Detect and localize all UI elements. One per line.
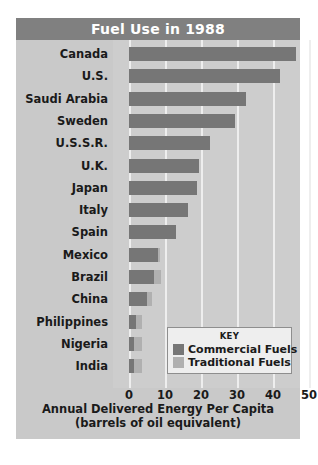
chart-figure: Fuel Use in 1988 CanadaU.S.Saudi ArabiaS… <box>16 18 300 439</box>
category-label: Brazil <box>71 270 108 284</box>
category-label: Mexico <box>63 248 108 262</box>
bar-segment-traditional <box>158 248 161 262</box>
x-tick-label: 40 <box>260 388 286 403</box>
chart-title: Fuel Use in 1988 <box>16 18 300 40</box>
axis-title-line2: (barrels of oil equivalent) <box>16 417 300 431</box>
bar-segment-traditional <box>154 270 161 284</box>
legend-swatch-icon <box>173 357 184 368</box>
bar-segment-traditional <box>134 359 141 373</box>
bar-segment-commercial <box>129 92 246 106</box>
x-tick-label: 10 <box>152 388 178 403</box>
bar-segment-traditional <box>134 337 141 351</box>
category-label: U.S. <box>82 69 108 83</box>
category-label: Saudi Arabia <box>25 92 108 106</box>
bar-segment-commercial <box>129 203 188 217</box>
plot-body: CanadaU.S.Saudi ArabiaSwedenU.S.S.R.U.K.… <box>16 40 300 388</box>
bar-segment-commercial <box>129 47 296 61</box>
category-label: China <box>71 292 108 306</box>
category-label: Spain <box>72 225 108 239</box>
bar-segment-commercial <box>129 159 199 173</box>
legend-items: Commercial FuelsTraditional Fuels <box>173 343 286 369</box>
bar-segment-commercial <box>129 136 210 150</box>
category-axis: CanadaU.S.Saudi ArabiaSwedenU.S.S.R.U.K.… <box>16 40 113 388</box>
axis-title-line1: Annual Delivered Energy Per Capita <box>16 403 300 417</box>
x-tick-label: 0 <box>116 388 142 403</box>
category-label: Canada <box>60 47 108 61</box>
axis-title: Annual Delivered Energy Per Capita (barr… <box>16 403 300 430</box>
bar-segment-commercial <box>129 292 147 306</box>
category-label: U.S.S.R. <box>56 136 108 150</box>
bar-segment-commercial <box>129 114 235 128</box>
legend-title: KEY <box>173 331 286 341</box>
bar-segment-commercial <box>129 315 136 329</box>
legend-swatch-icon <box>173 344 184 355</box>
chart-legend: KEY Commercial FuelsTraditional Fuels <box>167 327 292 374</box>
category-label: Philippines <box>36 315 108 329</box>
bar-segment-commercial <box>129 270 154 284</box>
category-label: Sweden <box>57 114 108 128</box>
category-label: Japan <box>72 181 108 195</box>
legend-item: Traditional Fuels <box>173 356 286 369</box>
category-label: Nigeria <box>61 337 108 351</box>
x-tick-label: 30 <box>224 388 250 403</box>
category-label: U.K. <box>81 159 108 173</box>
bar-segment-commercial <box>129 248 158 262</box>
x-tick-label: 50 <box>296 388 316 403</box>
category-label: India <box>76 359 108 373</box>
legend-item: Commercial Fuels <box>173 343 286 356</box>
bar-segment-traditional <box>136 315 141 329</box>
x-tick-label: 20 <box>188 388 214 403</box>
bar-segment-traditional <box>147 292 152 306</box>
legend-label: Traditional Fuels <box>188 356 291 369</box>
legend-label: Commercial Fuels <box>188 343 297 356</box>
gridline-50 <box>309 40 311 388</box>
bar-segment-commercial <box>129 225 176 239</box>
bar-segment-commercial <box>129 181 197 195</box>
bar-segment-commercial <box>129 69 280 83</box>
category-label: Italy <box>79 203 108 217</box>
plot-area: KEY Commercial FuelsTraditional Fuels <box>113 40 300 388</box>
